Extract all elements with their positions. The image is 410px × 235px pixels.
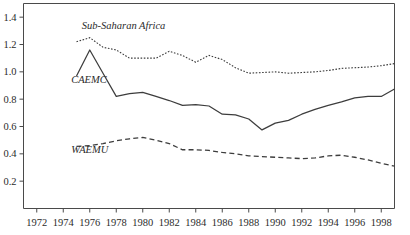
series-label-sub-saharan-africa: Sub-Saharan Africa (82, 20, 166, 31)
x-tick-label: 1972 (26, 217, 47, 228)
x-tick-label: 1998 (371, 217, 392, 228)
x-tick-label: 1984 (185, 217, 207, 228)
y-tick-label: 0.2 (3, 176, 16, 187)
x-tick-label: 1990 (265, 217, 286, 228)
series-label-waemu: WAEMU (71, 144, 110, 155)
x-tick-label: 1988 (238, 217, 259, 228)
series-line-sub-saharan-africa (77, 38, 395, 74)
y-tick-label: 1.4 (3, 12, 17, 23)
x-tick-label: 1980 (132, 217, 153, 228)
x-tick-label: 1992 (291, 217, 312, 228)
x-tick-label: 1996 (344, 217, 365, 228)
x-tick-label: 1986 (212, 217, 233, 228)
y-tick-label: 1.0 (3, 66, 16, 77)
series-line-waemu (77, 137, 395, 166)
x-tick-label: 1976 (79, 217, 100, 228)
y-tick-label: 0.6 (3, 121, 16, 132)
line-chart: 0.20.40.60.81.01.21.41972197419761978198… (0, 0, 410, 235)
x-tick-label: 1994 (318, 217, 340, 228)
x-tick-label: 1982 (159, 217, 180, 228)
y-tick-label: 1.2 (3, 39, 16, 50)
y-tick-label: 0.8 (3, 94, 16, 105)
series-line-caemc (77, 50, 395, 130)
x-tick-label: 1974 (53, 217, 75, 228)
series-label-caemc: CAEMC (71, 74, 108, 85)
y-tick-label: 0.4 (3, 148, 17, 159)
chart-container: 0.20.40.60.81.01.21.41972197419761978198… (0, 0, 410, 235)
x-tick-label: 1978 (106, 217, 127, 228)
